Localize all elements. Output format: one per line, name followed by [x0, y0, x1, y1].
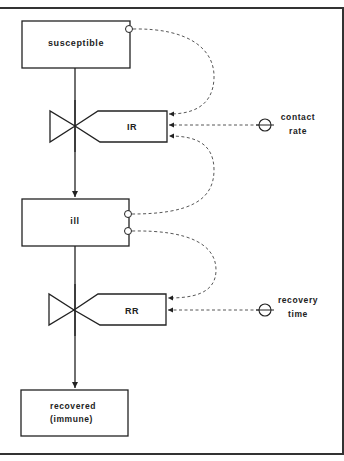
stock-flow-diagram: susceptible ill recovered (immune) IR RR…: [0, 0, 344, 461]
connector-port-icon: [125, 228, 132, 235]
stock-susceptible[interactable]: susceptible: [22, 21, 133, 68]
info-link-ill-to-RR: [132, 231, 216, 298]
parameter-label-line2: rate: [289, 126, 307, 136]
flow-valve-IR[interactable]: IR: [50, 100, 167, 152]
connector-port-icon: [125, 211, 132, 218]
parameter-label-line1: recovery: [278, 295, 318, 305]
stock-label: ill: [70, 216, 79, 226]
stock-box: [21, 390, 128, 436]
parameter-recovery-time[interactable]: recovery time: [256, 295, 318, 319]
rate-box: [75, 111, 167, 142]
flow-valve-RR[interactable]: RR: [49, 284, 166, 336]
stock-label-line2: (immune): [50, 414, 93, 424]
valve-left-triangle-icon: [50, 111, 75, 142]
stock-label: susceptible: [48, 38, 104, 48]
info-link-ill-to-IR: [132, 136, 214, 214]
stock-ill[interactable]: ill: [22, 199, 132, 246]
parameter-contact-rate[interactable]: contact rate: [256, 112, 315, 136]
rate-box: [74, 294, 166, 325]
connector-port-icon: [126, 26, 133, 33]
parameter-label-line2: time: [288, 309, 308, 319]
flow-label: IR: [127, 122, 137, 132]
stock-recovered[interactable]: recovered (immune): [21, 390, 128, 436]
flow-label: RR: [125, 306, 139, 316]
info-link-susceptible-to-IR: [133, 29, 214, 114]
valve-left-triangle-icon: [49, 294, 74, 325]
parameter-label-line1: contact: [281, 112, 315, 122]
stock-label-line1: recovered: [50, 401, 96, 411]
